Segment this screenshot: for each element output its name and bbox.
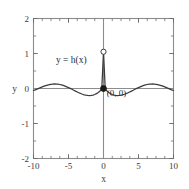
x-tick-label: 10 bbox=[169, 161, 179, 171]
x-tick-label: 0 bbox=[101, 161, 106, 171]
y-tick-label: 2 bbox=[25, 14, 30, 24]
y-tick-label: 0 bbox=[25, 84, 30, 94]
y-axis-title: y bbox=[12, 84, 17, 94]
chart-figure: -10-50510 -2-1012 x y y = h(x) (0, 0) bbox=[0, 0, 189, 189]
open-circle-limit bbox=[101, 49, 106, 54]
y-tick-label: 1 bbox=[25, 49, 30, 59]
x-axis-title: x bbox=[101, 174, 106, 184]
x-tick-label: -10 bbox=[28, 161, 40, 171]
plot-svg: -10-50510 -2-1012 x y y = h(x) (0, 0) bbox=[0, 0, 189, 189]
origin-point-label: (0, 0) bbox=[107, 88, 127, 98]
filled-point-origin bbox=[101, 86, 107, 92]
x-tick-label: -5 bbox=[65, 161, 73, 171]
y-tick-label: -2 bbox=[22, 154, 30, 164]
x-tick-label: 5 bbox=[136, 161, 141, 171]
curve-label: y = h(x) bbox=[56, 55, 87, 66]
y-tick-label: -1 bbox=[22, 119, 30, 129]
